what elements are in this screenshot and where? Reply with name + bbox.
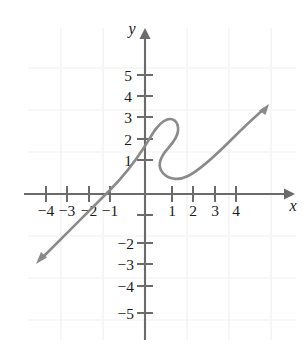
plotted-curve: [36, 104, 269, 264]
x-tick-label: 1: [168, 202, 176, 219]
x-axis-label: x: [288, 197, 296, 214]
background-grid: [28, 28, 296, 340]
y-axis-arrowhead: [140, 28, 151, 39]
y-tick-label: −3: [118, 256, 135, 273]
y-axis-label: y: [126, 20, 136, 38]
graph-figure: −4 −3 −2 −1 1 2 3 4 5 4 3 2 1 −2 −3 −4 −…: [0, 0, 308, 362]
x-tick-label: −3: [59, 202, 76, 219]
y-tick-label: −4: [118, 278, 135, 295]
y-tick-label: −2: [118, 235, 135, 252]
x-tick-label: 2: [189, 202, 197, 219]
x-tick-labels: −4 −3 −2 −1 1 2 3 4: [38, 202, 240, 219]
y-tick-label: −5: [118, 305, 135, 322]
y-tick-label: 5: [124, 67, 132, 84]
y-tick-label: 2: [124, 131, 132, 148]
y-tick-label: 3: [124, 109, 132, 126]
x-tick-label: 3: [211, 202, 219, 219]
curve-path: [43, 109, 264, 257]
x-axis: [24, 189, 295, 200]
y-tick-label: 4: [124, 88, 132, 105]
x-tick-label: −4: [38, 202, 55, 219]
x-tick-label: −1: [102, 202, 119, 219]
x-tick-label: 4: [232, 202, 240, 219]
coordinate-plane: −4 −3 −2 −1 1 2 3 4 5 4 3 2 1 −2 −3 −4 −…: [0, 0, 308, 362]
